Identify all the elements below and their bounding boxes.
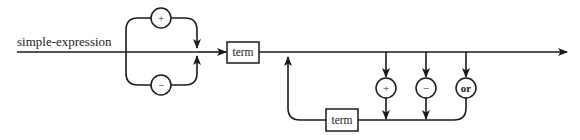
loop-term-box-label: term — [331, 114, 352, 126]
loop-back-path — [288, 57, 326, 120]
diagram-title: simple-expression — [17, 34, 112, 49]
or-operator-label: or — [461, 82, 472, 94]
term-box-label: term — [232, 46, 253, 58]
plus-operator-label: + — [383, 82, 389, 94]
syntax-diagram: simple-expression + − term + − or term — [0, 0, 580, 140]
plus-sign-label: + — [158, 12, 164, 24]
minus-operator-label: − — [423, 82, 429, 94]
or-operator-out — [454, 98, 466, 120]
minus-sign-label: − — [158, 79, 164, 91]
